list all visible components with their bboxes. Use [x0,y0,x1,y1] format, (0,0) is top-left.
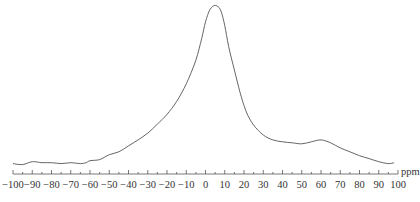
x-tick-label: −20 [159,179,175,190]
x-tick-label: −10 [178,179,194,190]
x-tick-label: −90 [24,179,40,190]
x-tick-label: 70 [335,179,346,190]
spectrum-curve [13,5,394,164]
x-tick-label: −50 [101,179,117,190]
x-tick-label: 20 [239,179,250,190]
x-tick-label: 40 [277,179,288,190]
nmr-spectrum-chart: −100−90−80−70−60−50−40−30−20−10010203040… [0,0,420,202]
x-axis-ticks [13,170,398,174]
x-axis-unit-label: ppm [401,166,420,177]
x-axis: −100−90−80−70−60−50−40−30−20−10010203040… [2,166,420,190]
x-tick-label: −80 [43,179,59,190]
x-tick-label: 0 [203,179,208,190]
x-tick-label: 10 [220,179,231,190]
x-tick-label: −30 [140,179,156,190]
x-tick-label: 80 [354,179,365,190]
x-tick-label: 60 [316,179,327,190]
x-axis-tick-labels: −100−90−80−70−60−50−40−30−20−10010203040… [2,179,406,190]
x-tick-label: −70 [63,179,79,190]
x-tick-label: 50 [297,179,308,190]
x-tick-label: −100 [2,179,24,190]
x-tick-label: −40 [120,179,136,190]
x-tick-label: 30 [258,179,269,190]
x-tick-label: −60 [82,179,98,190]
x-tick-label: 100 [390,179,406,190]
x-tick-label: 90 [374,179,385,190]
